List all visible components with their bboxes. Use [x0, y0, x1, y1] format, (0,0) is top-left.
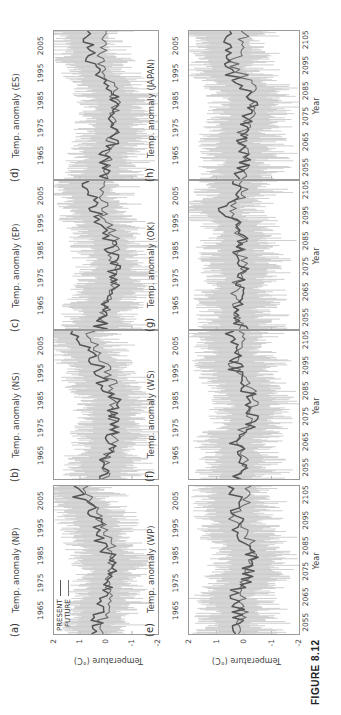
top-tick-label: 2005 — [171, 36, 180, 55]
y-tick-label: 1 — [211, 639, 220, 649]
panel-title: Temp. anomaly (NS) — [11, 372, 21, 458]
top-tick-label: 1985 — [36, 391, 45, 410]
panel-title: Temp. anomaly (ES) — [11, 73, 21, 158]
x-axis-label: Year — [312, 248, 321, 265]
time-series-plot — [189, 181, 299, 329]
plot-area — [53, 180, 159, 330]
top-tick-label: 1975 — [36, 573, 45, 592]
panel-title: Temp. anomaly (WS) — [146, 370, 156, 458]
y-tick-label: -2 — [153, 639, 162, 649]
legend-item-present: PRESENT — [56, 580, 64, 631]
panel-title: Temp. anomaly (NP) — [11, 527, 21, 613]
time-series-plot — [189, 486, 299, 634]
panel-tag: (d) — [9, 168, 20, 182]
bottom-tick-label: 2105 — [301, 30, 310, 49]
panel-tag: (h) — [144, 168, 155, 182]
top-tick-label: 2005 — [36, 491, 45, 510]
bottom-tick-label: 2095 — [301, 56, 310, 75]
panel-tag: (b) — [9, 468, 20, 482]
x-axis-label: Year — [312, 553, 321, 570]
time-series-plot — [189, 331, 299, 479]
panel-tag: (e) — [144, 623, 155, 637]
top-tick-label: 1965 — [36, 601, 45, 620]
top-tick-label: 1965 — [171, 446, 180, 465]
plot-area — [188, 30, 300, 180]
x-axis-label: Year — [312, 98, 321, 115]
y-tick-label: -1 — [127, 639, 136, 649]
plot-area — [188, 485, 300, 635]
top-tick-label: 1985 — [171, 391, 180, 410]
figure-caption: FIGURE 8.12 — [310, 639, 321, 705]
top-tick-label: 2005 — [171, 186, 180, 205]
legend: PRESENTFUTURE — [56, 580, 72, 631]
bottom-tick-label: 2065 — [301, 432, 310, 451]
panel-title: Temp. anomaly (EP) — [11, 223, 21, 308]
bottom-tick-label: 2065 — [301, 132, 310, 151]
legend-item-future: FUTURE — [64, 580, 72, 631]
bottom-tick-label: 2105 — [301, 180, 310, 199]
top-tick-label: 1995 — [36, 64, 45, 83]
time-series-plot — [189, 31, 299, 179]
top-tick-label: 1995 — [171, 519, 180, 538]
top-tick-label: 2005 — [36, 186, 45, 205]
y-tick-label: 0 — [239, 639, 248, 649]
top-tick-label: 1975 — [171, 573, 180, 592]
top-tick-label: 1965 — [171, 601, 180, 620]
top-tick-label: 1985 — [36, 241, 45, 260]
top-tick-label: 1995 — [171, 214, 180, 233]
top-tick-label: 1965 — [36, 296, 45, 315]
bottom-tick-label: 2085 — [301, 231, 310, 250]
top-tick-label: 1965 — [36, 446, 45, 465]
top-tick-label: 1975 — [36, 418, 45, 437]
top-tick-label: 1995 — [171, 364, 180, 383]
bottom-tick-label: 2095 — [301, 356, 310, 375]
panel-tag: (a) — [9, 623, 20, 637]
top-tick-label: 1985 — [36, 546, 45, 565]
top-tick-label: 1985 — [171, 241, 180, 260]
top-tick-label: 1975 — [171, 118, 180, 137]
top-tick-label: 1965 — [171, 296, 180, 315]
y-tick-label: 0 — [101, 639, 110, 649]
bottom-tick-label: 2065 — [301, 587, 310, 606]
top-tick-label: 1975 — [171, 418, 180, 437]
top-tick-label: 1985 — [171, 546, 180, 565]
y-axis-label: Temperature (°C) — [74, 656, 143, 665]
bottom-tick-label: 2105 — [301, 485, 310, 504]
plot-area — [53, 30, 159, 180]
top-tick-label: 1995 — [36, 364, 45, 383]
top-tick-label: 1985 — [36, 91, 45, 110]
bottom-tick-label: 2105 — [301, 330, 310, 349]
x-axis-label: Year — [312, 398, 321, 415]
panel-title: Temp. anomaly (WP) — [146, 525, 156, 613]
bottom-tick-label: 2055 — [301, 158, 310, 177]
top-tick-label: 1995 — [171, 64, 180, 83]
bottom-tick-label: 2075 — [301, 257, 310, 276]
top-tick-label: 1975 — [171, 268, 180, 287]
bottom-tick-label: 2075 — [301, 407, 310, 426]
time-series-plot — [54, 31, 158, 179]
plot-area — [53, 330, 159, 480]
y-tick-label: -1 — [266, 639, 275, 649]
y-tick-label: -2 — [294, 639, 303, 649]
top-tick-label: 1995 — [36, 519, 45, 538]
panel-tag: (f) — [144, 471, 155, 482]
panel-tag: (g) — [144, 318, 155, 332]
time-series-plot — [54, 331, 158, 479]
bottom-tick-label: 2065 — [301, 282, 310, 301]
bottom-tick-label: 2055 — [301, 308, 310, 327]
bottom-tick-label: 2075 — [301, 107, 310, 126]
top-tick-label: 2005 — [171, 336, 180, 355]
legend-label-present: PRESENT — [56, 599, 64, 631]
figure-8-12: (a)Temp. anomaly (NP)1965197519851995200… — [0, 0, 341, 715]
legend-label-future: FUTURE — [64, 599, 72, 627]
bottom-tick-label: 2055 — [301, 613, 310, 632]
y-tick-label: 1 — [75, 639, 84, 649]
top-tick-label: 1975 — [36, 268, 45, 287]
bottom-tick-label: 2085 — [301, 536, 310, 555]
top-tick-label: 2005 — [171, 491, 180, 510]
bottom-tick-label: 2085 — [301, 381, 310, 400]
legend-swatch-present — [60, 580, 61, 596]
panel-title: Temp. anomaly (JAPAN) — [146, 59, 156, 158]
bottom-tick-label: 2095 — [301, 206, 310, 225]
top-tick-label: 1995 — [36, 214, 45, 233]
